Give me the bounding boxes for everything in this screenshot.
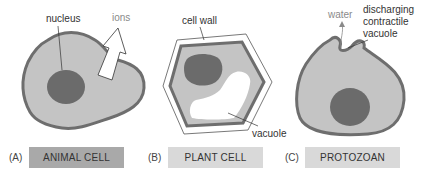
plant-cell-title: PLANT CELL	[168, 147, 263, 168]
vacuole-label: vacuole	[252, 128, 287, 139]
panel-b-caption: (B) PLANT CELL	[148, 147, 263, 168]
cell-wall-label: cell wall	[182, 15, 217, 26]
cv-label-line3: vacuole	[363, 28, 398, 39]
panel-a-letter: (A)	[9, 152, 29, 163]
animal-cell-title: ANIMAL CELL	[29, 147, 124, 168]
panel-c-letter: (C)	[285, 152, 305, 163]
cv-label-line2: contractile	[363, 16, 409, 27]
cells-diagram: nucleus ions cell wall vacuole water dis…	[0, 0, 426, 145]
protozoan: water discharging contractile vacuole	[297, 4, 415, 135]
animal-nucleus	[47, 70, 85, 104]
panel-b-letter: (B)	[148, 152, 168, 163]
panel-a-caption: (A) ANIMAL CELL	[9, 147, 124, 168]
ions-label: ions	[112, 12, 130, 23]
protozoan-title: PROTOZOAN	[305, 147, 400, 168]
animal-cell: nucleus ions	[23, 12, 144, 128]
cv-label-line1: discharging	[363, 4, 414, 15]
panel-c-caption: (C) PROTOZOAN	[285, 147, 400, 168]
plant-nucleus	[184, 54, 222, 86]
nucleus-label: nucleus	[46, 13, 80, 24]
protozoan-nucleus	[330, 88, 370, 126]
water-arrowhead-icon	[339, 21, 345, 27]
water-label: water	[327, 9, 353, 20]
plant-cell: cell wall vacuole	[163, 15, 287, 139]
